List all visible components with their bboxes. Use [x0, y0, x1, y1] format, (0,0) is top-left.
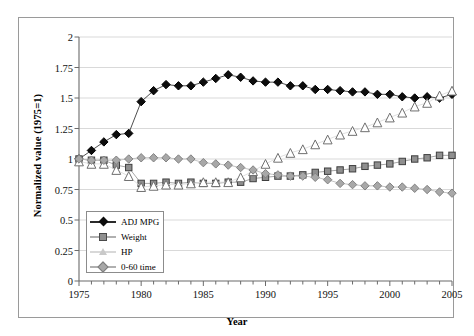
data-point — [323, 135, 332, 144]
data-point — [348, 127, 357, 136]
data-point — [424, 155, 430, 161]
data-series-layer — [75, 71, 457, 198]
data-point — [149, 154, 157, 162]
chart-page: 00.250.50.7511.251.51.752 19751980198519… — [0, 0, 474, 336]
data-point — [174, 82, 182, 90]
data-point — [261, 159, 270, 168]
legend-line — [90, 251, 116, 253]
legend-label: Weight — [121, 232, 147, 242]
data-point — [386, 90, 394, 98]
data-point — [187, 82, 195, 90]
y-tick-label: 1 — [68, 154, 73, 165]
data-point — [374, 162, 380, 168]
y-tick-label: 1.5 — [60, 93, 73, 104]
data-point — [187, 155, 195, 163]
data-point — [125, 129, 133, 137]
data-point — [261, 78, 269, 86]
legend-item-weight[interactable]: Weight — [87, 229, 163, 244]
data-point — [298, 145, 307, 154]
data-point — [412, 156, 418, 162]
data-point — [324, 168, 330, 174]
data-point — [137, 154, 145, 162]
series-line — [79, 75, 452, 159]
data-point — [411, 94, 419, 102]
data-point — [311, 140, 320, 149]
data-point — [411, 184, 419, 192]
x-tick-label: 2000 — [379, 289, 400, 300]
x-tick-label: 1995 — [317, 289, 338, 300]
x-tick-label: 2005 — [442, 289, 463, 300]
y-tick-label: 0.25 — [55, 245, 73, 256]
data-point — [311, 85, 319, 93]
data-point — [236, 163, 244, 171]
x-axis-title: Year — [0, 316, 474, 327]
chart-legend: ADJ MPGWeightHP0-60 time — [86, 211, 164, 273]
y-tick-label: 1.25 — [55, 123, 73, 134]
data-point — [323, 85, 331, 93]
data-point — [385, 113, 394, 122]
legend-label: HP — [121, 247, 133, 257]
legend-label: 0-60 time — [121, 262, 156, 272]
data-point — [449, 152, 455, 158]
y-tick-label: 0.5 — [60, 215, 73, 226]
legend-item-adj-mpg[interactable]: ADJ MPG — [87, 214, 163, 229]
legend-line — [90, 266, 116, 268]
data-point — [125, 155, 133, 163]
data-point — [274, 78, 282, 86]
legend-item-0-60-time[interactable]: 0-60 time — [87, 259, 163, 274]
data-point — [361, 88, 369, 96]
y-tick-label: 2 — [68, 32, 73, 43]
data-point — [199, 78, 207, 86]
data-point — [435, 91, 444, 100]
diamond-gray-icon — [97, 261, 108, 272]
data-point — [362, 163, 368, 169]
data-point — [398, 108, 407, 117]
data-point — [299, 82, 307, 90]
x-axis-tick-labels: 1975198019851990199520002005 — [0, 289, 474, 305]
y-tick-label: 1.75 — [55, 62, 73, 73]
data-point — [361, 182, 369, 190]
data-point — [398, 93, 406, 101]
data-point — [349, 166, 355, 172]
data-point — [236, 73, 244, 81]
data-point — [286, 149, 295, 158]
y-axis-title: Normalized value (1975=1) — [32, 56, 43, 256]
data-point — [373, 182, 381, 190]
triangle-pale-icon — [99, 248, 107, 255]
data-point — [387, 161, 393, 167]
x-tick-label: 1985 — [193, 289, 214, 300]
data-point — [199, 158, 207, 166]
data-point — [348, 180, 356, 188]
x-tick-label: 1990 — [255, 289, 276, 300]
data-point — [224, 71, 232, 79]
data-point — [100, 138, 108, 146]
x-tick-marks — [79, 281, 452, 286]
square-gray-icon — [99, 233, 107, 241]
data-point — [361, 123, 370, 132]
data-point — [336, 179, 344, 187]
data-point — [423, 185, 431, 193]
data-point — [236, 173, 245, 182]
data-point — [286, 82, 294, 90]
data-point — [274, 153, 283, 162]
legend-line — [90, 221, 116, 223]
data-point — [373, 90, 381, 98]
data-point — [250, 175, 256, 181]
data-point — [448, 189, 456, 197]
diamond-dark-icon — [98, 217, 108, 227]
data-point — [448, 86, 457, 95]
legend-line — [90, 236, 116, 238]
data-point — [162, 154, 170, 162]
data-point — [323, 176, 331, 184]
data-point — [112, 130, 120, 138]
legend-label: ADJ MPG — [121, 217, 159, 227]
data-point — [212, 74, 220, 82]
data-point — [336, 86, 344, 94]
data-point — [126, 164, 132, 170]
data-point — [212, 160, 220, 168]
data-point — [423, 98, 432, 107]
data-point — [87, 146, 95, 154]
data-point — [249, 77, 257, 85]
data-point — [399, 158, 405, 164]
legend-item-hp[interactable]: HP — [87, 244, 163, 259]
